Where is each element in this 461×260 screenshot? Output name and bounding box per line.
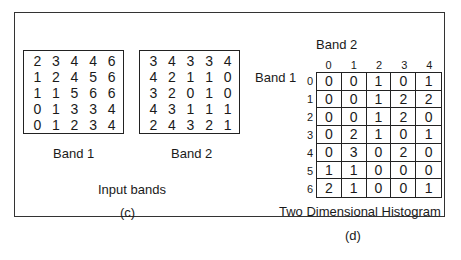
hist-row-header: 6 [304, 180, 316, 198]
hist-cell: 0 [317, 73, 342, 91]
band2-cell: 1 [200, 101, 219, 117]
band1-cell: 4 [65, 53, 84, 69]
hist-row-header: 5 [304, 162, 316, 180]
hist-cell: 0 [342, 73, 367, 91]
hist-cell: 0 [391, 162, 416, 180]
hist-cell: 1 [367, 91, 392, 109]
hist-cell: 0 [367, 179, 392, 197]
hist-cell: 0 [367, 144, 392, 162]
band1-cell: 6 [102, 85, 121, 101]
hist-cell: 2 [317, 179, 342, 197]
band1-cell: 0 [28, 117, 47, 133]
hist-cell: 2 [391, 91, 416, 109]
band1-cell: 5 [65, 85, 84, 101]
band1-cell: 1 [47, 85, 66, 101]
band1-cell: 6 [102, 53, 121, 69]
band2-cell: 3 [144, 85, 163, 101]
band1-cell: 1 [28, 69, 47, 85]
hist-col-header: 3 [392, 59, 417, 71]
hist-cell: 1 [416, 126, 441, 144]
hist-col-header: 1 [341, 59, 366, 71]
hist-row-header: 3 [304, 126, 316, 144]
band2-cell: 3 [200, 53, 219, 69]
hist-cell: 2 [342, 126, 367, 144]
band1-cell: 4 [102, 117, 121, 133]
band2-cell: 2 [144, 117, 163, 133]
hist-cell: 0 [416, 162, 441, 180]
band1-cell: 1 [47, 101, 66, 117]
band1-cell: 5 [84, 69, 103, 85]
band2-cell: 4 [144, 69, 163, 85]
hist-cell: 0 [317, 108, 342, 126]
band1-cell: 2 [65, 117, 84, 133]
band2-cell: 1 [218, 101, 237, 117]
hist-cell: 1 [367, 73, 392, 91]
histogram-table: 00101001220012002101030201100021001 [316, 72, 442, 198]
band1-matrix: 2344612456115660133401234 [23, 50, 124, 134]
band2-label: Band 2 [171, 146, 212, 161]
hist-cell: 1 [342, 162, 367, 180]
hist-cell: 1 [342, 179, 367, 197]
hist-col-header: 2 [366, 59, 391, 71]
hist-cell: 0 [416, 108, 441, 126]
band2-cell: 1 [218, 117, 237, 133]
band1-cell: 2 [47, 69, 66, 85]
band1-cell: 4 [65, 69, 84, 85]
band1-cell: 3 [84, 117, 103, 133]
band2-cell: 0 [218, 69, 237, 85]
hist-row-header: 4 [304, 144, 316, 162]
band1-cell: 4 [102, 101, 121, 117]
hist-row-axis-label: Band 1 [255, 70, 296, 85]
band1-cell: 3 [65, 101, 84, 117]
band1-cell: 6 [84, 85, 103, 101]
hist-cell: 0 [367, 162, 392, 180]
band2-cell: 4 [218, 53, 237, 69]
band1-cell: 0 [28, 101, 47, 117]
hist-cell: 1 [317, 162, 342, 180]
panel-c-label: (c) [120, 205, 135, 220]
hist-cell: 0 [317, 126, 342, 144]
hist-cell: 1 [416, 73, 441, 91]
hist-cell: 2 [416, 91, 441, 109]
hist-row-header: 2 [304, 108, 316, 126]
hist-cell: 0 [317, 144, 342, 162]
band1-cell: 3 [84, 101, 103, 117]
hist-cell: 0 [391, 179, 416, 197]
hist-cell: 1 [416, 179, 441, 197]
hist-row-header: 1 [304, 90, 316, 108]
hist-cell: 1 [367, 126, 392, 144]
histogram-caption: Two Dimensional Histogram [279, 204, 441, 219]
hist-row-header: 0 [304, 72, 316, 90]
hist-cell: 2 [391, 144, 416, 162]
band2-cell: 1 [200, 69, 219, 85]
band1-cell: 1 [28, 85, 47, 101]
hist-cell: 0 [391, 73, 416, 91]
hist-cell: 2 [391, 108, 416, 126]
hist-col-headers: 01234 [316, 59, 442, 71]
band2-cell: 3 [163, 101, 182, 117]
hist-row-headers: 0123456 [304, 72, 316, 198]
band1-cell: 6 [102, 69, 121, 85]
hist-col-header: 0 [316, 59, 341, 71]
band2-cell: 0 [218, 85, 237, 101]
band2-cell: 1 [181, 101, 200, 117]
hist-cell: 0 [416, 144, 441, 162]
hist-cell: 0 [317, 91, 342, 109]
band1-cell: 4 [84, 53, 103, 69]
band2-cell: 3 [144, 53, 163, 69]
band2-cell: 4 [163, 117, 182, 133]
hist-cell: 0 [342, 108, 367, 126]
band2-matrix: 3433442110320104311124321 [139, 50, 240, 134]
band2-cell: 3 [181, 53, 200, 69]
hist-cell: 3 [342, 144, 367, 162]
hist-col-header: 4 [417, 59, 442, 71]
band2-cell: 0 [181, 85, 200, 101]
band2-cell: 4 [163, 53, 182, 69]
band1-cell: 1 [47, 117, 66, 133]
band2-cell: 2 [163, 69, 182, 85]
band2-cell: 1 [200, 85, 219, 101]
input-bands-caption: Input bands [98, 182, 166, 197]
hist-cell: 0 [391, 126, 416, 144]
band2-cell: 2 [163, 85, 182, 101]
band1-cell: 2 [28, 53, 47, 69]
